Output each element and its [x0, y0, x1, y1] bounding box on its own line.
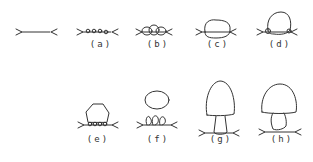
- panel-label-f: (f): [147, 134, 169, 144]
- panel-label-e: (e): [87, 134, 109, 144]
- panel-f-drawing: [137, 91, 177, 128]
- panel-label-g: (g): [210, 134, 232, 144]
- panel-label-b: (b): [147, 39, 169, 49]
- panel-label-a: (a): [90, 39, 112, 49]
- panel-d-drawing: [257, 12, 297, 35]
- panel-initial-drawing: [16, 29, 57, 35]
- panel-c-drawing: [196, 20, 236, 38]
- panel-label-h: (h): [271, 134, 293, 144]
- panel-e-drawing: [78, 104, 118, 128]
- panel-h-drawing: [259, 84, 301, 135]
- panel-label-d: (d): [269, 39, 291, 49]
- panel-g-drawing: [199, 81, 239, 136]
- panel-b-drawing: [136, 25, 172, 35]
- panel-label-c: (c): [207, 39, 229, 49]
- panel-a-drawing: [77, 29, 118, 35]
